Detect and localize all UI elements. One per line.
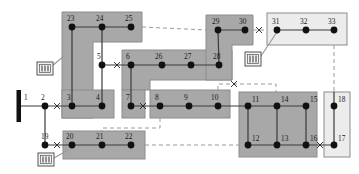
node-22[interactable] (128, 142, 135, 149)
node-label-20: 20 (66, 133, 74, 140)
node-label-25: 25 (125, 15, 133, 22)
node-26[interactable] (159, 62, 166, 69)
node-3[interactable] (69, 103, 76, 110)
node-7[interactable] (128, 103, 135, 110)
zone-layer (62, 12, 350, 159)
node-18[interactable] (331, 103, 338, 110)
node-12[interactable] (245, 142, 252, 149)
node-label-21: 21 (96, 133, 104, 140)
node-21[interactable] (99, 142, 106, 149)
node-30[interactable] (242, 27, 249, 34)
node-label-33: 33 (328, 18, 336, 25)
node-label-12: 12 (252, 135, 260, 142)
transformer-right[interactable] (245, 52, 261, 66)
node-label-17: 17 (338, 135, 346, 142)
node-32[interactable] (303, 27, 310, 34)
node-24[interactable] (99, 24, 106, 31)
diagram-canvas: 1234567891011121314151617181920212223242… (0, 0, 359, 174)
node-label-2: 2 (41, 94, 45, 101)
node-label-6: 6 (126, 53, 130, 60)
tie-8-21 (102, 118, 160, 131)
node-label-8: 8 (155, 94, 159, 101)
node-2[interactable] (42, 103, 49, 110)
node-label-9: 9 (184, 94, 188, 101)
node-27[interactable] (188, 62, 195, 69)
node-19[interactable] (42, 142, 49, 149)
source-bar[interactable] (17, 90, 22, 122)
zone-bus-17-18 (324, 92, 350, 157)
node-23[interactable] (69, 24, 76, 31)
node-label-15: 15 (310, 96, 318, 103)
node-label-13: 13 (281, 135, 289, 142)
transformer-bottom[interactable] (38, 153, 54, 166)
node-label-11: 11 (252, 96, 259, 103)
node-label-32: 32 (300, 18, 308, 25)
node-label-14: 14 (281, 96, 289, 103)
node-label-22: 22 (125, 133, 133, 140)
node-label-1: 1 (24, 94, 28, 101)
node-31[interactable] (274, 27, 281, 34)
node-29[interactable] (215, 27, 222, 34)
node-33[interactable] (331, 27, 338, 34)
node-label-10: 10 (211, 94, 219, 101)
node-4[interactable] (99, 103, 106, 110)
node-label-23: 23 (67, 15, 75, 22)
node-6[interactable] (128, 62, 135, 69)
node-25[interactable] (128, 24, 135, 31)
node-label-26: 26 (155, 53, 163, 60)
node-9[interactable] (186, 103, 193, 110)
node-label-4: 4 (96, 94, 100, 101)
node-15[interactable] (303, 103, 310, 110)
node-label-19: 19 (41, 133, 49, 140)
node-label-18: 18 (338, 96, 346, 103)
node-label-29: 29 (212, 18, 220, 25)
node-label-31: 31 (272, 18, 280, 25)
node-17[interactable] (331, 142, 338, 149)
node-label-30: 30 (239, 18, 247, 25)
transformer-left[interactable] (37, 62, 53, 75)
node-label-24: 24 (96, 15, 104, 22)
node-label-5: 5 (97, 53, 101, 60)
node-16[interactable] (303, 142, 310, 149)
node-label-28: 28 (213, 53, 221, 60)
node-label-16: 16 (310, 135, 318, 142)
node-label-3: 3 (67, 94, 71, 101)
node-14[interactable] (274, 103, 281, 110)
node-label-27: 27 (184, 53, 192, 60)
tie-25-29 (142, 27, 206, 30)
node-10[interactable] (215, 103, 222, 110)
network-svg (0, 0, 359, 174)
node-28[interactable] (216, 62, 223, 69)
node-8[interactable] (157, 103, 164, 110)
node-20[interactable] (69, 142, 76, 149)
node-11[interactable] (245, 103, 252, 110)
node-label-7: 7 (126, 94, 130, 101)
node-13[interactable] (274, 142, 281, 149)
node-5[interactable] (99, 62, 106, 69)
